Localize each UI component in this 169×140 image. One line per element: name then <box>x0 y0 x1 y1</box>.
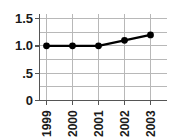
y-tick-label-0-5: .5 <box>1 67 33 80</box>
horizontal-gridlines <box>40 19 167 87</box>
y-tick-label-1-0: 1.0 <box>1 39 33 52</box>
data-point-1999 <box>43 42 50 49</box>
line-chart: 1.5 1.0 .5 0 1999 2000 2001 2002 2003 <box>0 0 169 140</box>
x-tick-label-2002: 2002 <box>119 110 131 137</box>
x-tick-label-2003: 2003 <box>145 110 157 137</box>
data-point-2002 <box>121 37 128 44</box>
y-tick-label-0: 0 <box>1 94 33 107</box>
x-tick-label-2000: 2000 <box>67 110 79 137</box>
x-tick-label-2001: 2001 <box>93 110 105 137</box>
y-tick-label-1-5: 1.5 <box>1 12 33 25</box>
data-point-2001 <box>95 42 102 49</box>
data-point-2003 <box>147 32 154 39</box>
x-tick-label-1999: 1999 <box>41 110 53 137</box>
data-point-2000 <box>69 42 76 49</box>
